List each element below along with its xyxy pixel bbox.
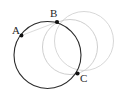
point-c-dot bbox=[75, 71, 79, 75]
geometry-figure: A B C bbox=[0, 0, 120, 98]
point-a-dot bbox=[20, 34, 24, 38]
point-b-dot bbox=[55, 20, 59, 24]
geometry-canvas bbox=[0, 0, 120, 98]
point-b-label: B bbox=[50, 8, 57, 19]
point-a-label: A bbox=[12, 25, 20, 36]
point-c-label: C bbox=[80, 73, 87, 84]
circle-middle bbox=[43, 20, 98, 75]
